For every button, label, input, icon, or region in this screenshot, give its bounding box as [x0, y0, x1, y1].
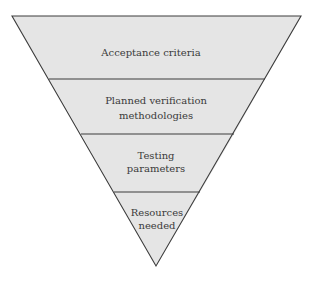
level-3-label-line-1: Testing [137, 150, 175, 161]
level-3-label-line-2: parameters [127, 163, 185, 174]
level-2-band [49, 79, 265, 134]
pyramid-svg: Acceptance criteria Planned verification… [0, 0, 312, 283]
level-4-label-line-2: needed [139, 220, 177, 231]
inverted-pyramid-diagram: Acceptance criteria Planned verification… [0, 0, 312, 283]
level-2-label-line-2: methodologies [119, 110, 193, 121]
level-1-label: Acceptance criteria [100, 47, 200, 58]
level-4-label-line-1: Resources [131, 207, 183, 218]
level-2-label-line-1: Planned verification [105, 95, 207, 106]
